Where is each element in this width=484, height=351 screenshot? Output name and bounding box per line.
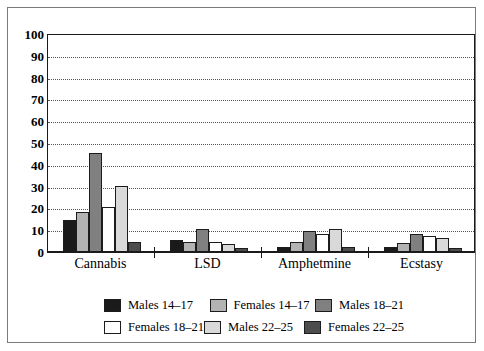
plot-area — [47, 34, 475, 252]
bars-layer — [48, 35, 474, 251]
legend-item: Females 18–21 — [104, 320, 204, 335]
y-axis-tick-90: 90 — [10, 49, 44, 62]
bar — [222, 244, 235, 251]
legend-row: Females 18–21Males 22–25Females 22–25 — [104, 320, 404, 335]
bar — [303, 231, 316, 251]
legend-item: Males 14–17 — [104, 298, 210, 313]
figure-frame: 1009080706050403020100 CannabisLSDAmphet… — [7, 7, 476, 343]
bar-group-cannabis — [48, 35, 155, 251]
x-axis-label-ecstasy: Ecstasy — [400, 256, 443, 272]
x-axis-label-lsd: LSD — [194, 256, 220, 272]
chart-page: 1009080706050403020100 CannabisLSDAmphet… — [0, 0, 484, 351]
legend-swatch-icon — [104, 321, 121, 334]
legend-swatch-icon — [210, 299, 227, 312]
y-axis-tick-40: 40 — [10, 158, 44, 171]
legend-label: Males 22–25 — [228, 320, 293, 335]
y-axis-tick-70: 70 — [10, 93, 44, 106]
y-axis-tick-50: 50 — [10, 137, 44, 150]
bar — [183, 242, 196, 251]
y-axis-tick-80: 80 — [10, 71, 44, 84]
bar-group-ecstasy — [369, 35, 476, 251]
legend-item: Females 14–17 — [210, 298, 316, 313]
bar — [170, 240, 183, 251]
legend-label: Females 18–21 — [128, 320, 204, 335]
bar — [209, 242, 222, 251]
bar — [384, 247, 397, 251]
x-axis-label-cannabis: Cannabis — [74, 256, 126, 272]
legend-item: Males 18–21 — [315, 298, 404, 313]
bar — [63, 220, 76, 251]
bar — [449, 248, 462, 251]
legend-swatch-icon — [315, 299, 332, 312]
legend-label: Females 22–25 — [328, 320, 404, 335]
bar — [329, 229, 342, 251]
bar-group-amphetmine — [262, 35, 369, 251]
bar-group-lsd — [155, 35, 262, 251]
x-axis-labels: CannabisLSDAmphetmineEcstasy — [47, 256, 475, 278]
bar — [196, 229, 209, 251]
y-axis-tick-60: 60 — [10, 115, 44, 128]
legend-label: Males 18–21 — [339, 298, 404, 313]
bar — [342, 247, 355, 251]
legend-swatch-icon — [104, 299, 121, 312]
bar — [423, 236, 436, 251]
bar — [76, 212, 89, 251]
legend-row: Males 14–17Females 14–17Males 18–21 — [104, 298, 404, 313]
bar — [397, 243, 410, 251]
legend-label: Females 14–17 — [234, 298, 310, 313]
y-axis-tick-30: 30 — [10, 180, 44, 193]
legend-swatch-icon — [204, 321, 221, 334]
chart-legend: Males 14–17Females 14–17Males 18–21Femal… — [104, 298, 404, 342]
bar — [115, 186, 128, 251]
legend-label: Males 14–17 — [128, 298, 193, 313]
y-axis-tick-0: 0 — [10, 246, 44, 259]
x-axis-label-amphetmine: Amphetmine — [278, 256, 351, 272]
bar — [316, 234, 329, 251]
bar — [128, 242, 141, 251]
bar — [102, 207, 115, 251]
bar — [290, 242, 303, 251]
bar — [277, 247, 290, 251]
bar — [235, 248, 248, 251]
y-axis: 1009080706050403020100 — [8, 34, 44, 252]
bar — [436, 238, 449, 251]
plot-region — [47, 34, 475, 252]
legend-item: Males 22–25 — [204, 320, 304, 335]
y-axis-tick-10: 10 — [10, 224, 44, 237]
y-axis-tick-20: 20 — [10, 202, 44, 215]
y-axis-tick-100: 100 — [10, 28, 44, 41]
bar — [410, 234, 423, 251]
legend-item: Females 22–25 — [304, 320, 404, 335]
bar — [89, 153, 102, 251]
legend-swatch-icon — [304, 321, 321, 334]
